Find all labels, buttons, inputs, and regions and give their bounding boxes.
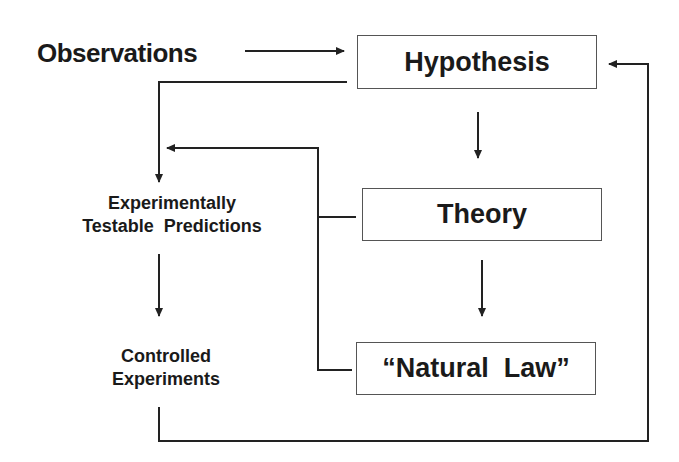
experiments-line-2: Experiments (66, 368, 266, 391)
predictions-line-1: Experimentally (52, 192, 292, 215)
experiments-label: Controlled Experiments (66, 345, 266, 390)
experiments-line-1: Controlled (66, 345, 266, 368)
predictions-line-2: Testable Predictions (52, 215, 292, 238)
hypothesis-box: Hypothesis (357, 35, 597, 89)
observations-label: Observations (37, 37, 197, 70)
predictions-label: Experimentally Testable Predictions (52, 192, 292, 237)
natural-law-box: “Natural Law” (356, 342, 596, 395)
theory-box: Theory (362, 188, 602, 241)
